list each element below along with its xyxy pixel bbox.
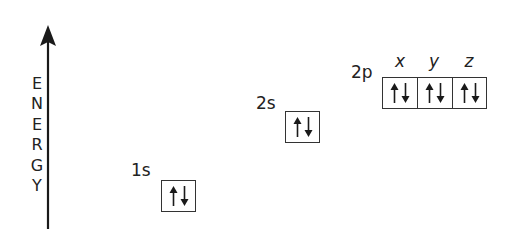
spin-down-arrow-icon [304, 117, 313, 137]
energy-letter: R [31, 135, 42, 155]
spin-up-arrow-icon [460, 83, 469, 103]
energy-axis-arrow [0, 0, 509, 242]
orbital-cell-2py [417, 78, 452, 108]
spin-down-arrow-icon [471, 83, 480, 103]
energy-letter: G [31, 156, 43, 176]
orbital-box-2s [285, 111, 320, 143]
spin-down-arrow-icon [180, 186, 189, 206]
spin-up-arrow-icon [425, 83, 434, 103]
orbital-cell-2px [383, 78, 417, 108]
energy-letter: E [32, 115, 42, 135]
spin-up-arrow-icon [169, 186, 178, 206]
orbital-cell [162, 181, 195, 211]
sublabel-y: y [417, 53, 451, 70]
energy-letter: Y [32, 176, 42, 196]
spin-up-arrow-icon [293, 117, 302, 137]
sublabel-x: x [383, 53, 417, 70]
sublabel-z: z [452, 53, 486, 70]
energy-letter: N [31, 94, 43, 114]
orbital-cell-2pz [452, 78, 486, 108]
orbital-label-2p: 2p [351, 64, 373, 81]
orbital-box-2p [382, 77, 487, 109]
orbital-label-2s: 2s [256, 95, 276, 112]
orbital-label-1s: 1s [131, 162, 151, 179]
orbital-box-1s [161, 180, 196, 212]
energy-letter: E [32, 74, 42, 94]
orbital-cell [286, 112, 319, 142]
spin-up-arrow-icon [390, 83, 399, 103]
energy-axis-label: E N E R G Y [30, 74, 44, 196]
spin-down-arrow-icon [401, 83, 410, 103]
spin-down-arrow-icon [436, 83, 445, 103]
